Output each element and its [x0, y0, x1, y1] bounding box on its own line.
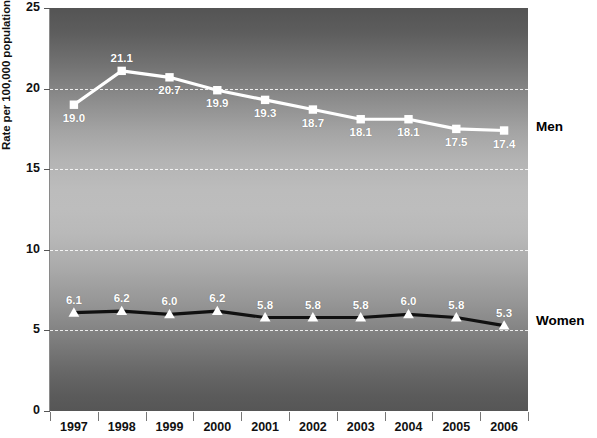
cropped-chart-title	[240, 0, 370, 6]
value-label-men-2001: 19.3	[243, 108, 287, 120]
value-label-men-2000: 19.9	[195, 98, 239, 110]
value-label-men-2006: 17.4	[482, 139, 526, 151]
x-tick-mark-end	[528, 412, 529, 421]
value-label-women-2001: 5.8	[243, 300, 287, 312]
series-line-men	[74, 71, 504, 131]
value-label-women-2005: 5.8	[434, 300, 478, 312]
value-label-women-2002: 5.8	[291, 300, 335, 312]
plot-area: 19.021.120.719.919.318.718.118.117.517.4…	[50, 8, 528, 411]
x-tick-mark-2006	[480, 412, 481, 421]
x-tick-mark-2001	[241, 412, 242, 421]
value-label-women-1999: 6.0	[148, 296, 192, 308]
x-tick-mark-2000	[193, 412, 194, 421]
series-label-women: Women	[536, 314, 585, 328]
series-lines	[50, 8, 528, 411]
value-label-men-1998: 21.1	[100, 53, 144, 65]
value-label-women-1998: 6.2	[100, 293, 144, 305]
y-tick-label-20: 20	[14, 82, 40, 95]
x-tick-mark-2005	[432, 412, 433, 421]
data-point-men-1998	[118, 67, 126, 75]
data-point-men-1997	[70, 101, 78, 109]
value-label-men-1997: 19.0	[52, 113, 96, 125]
data-point-men-2006	[500, 126, 508, 134]
y-tick-label-25: 25	[14, 1, 40, 14]
y-tick-label-10: 10	[14, 243, 40, 256]
y-tick-label-0: 0	[14, 404, 40, 417]
data-point-men-2005	[452, 125, 460, 133]
data-point-men-2003	[357, 115, 365, 123]
x-tick-mark-2002	[289, 412, 290, 421]
x-tick-label-2006: 2006	[474, 421, 534, 434]
series-line-women	[74, 311, 504, 326]
y-tick-label-15: 15	[14, 162, 40, 175]
x-tick-mark-1999	[146, 412, 147, 421]
data-point-men-2001	[261, 96, 269, 104]
x-tick-mark-2004	[385, 412, 386, 421]
data-point-men-1999	[165, 73, 173, 81]
y-axis-title: Rate per 100,000 population	[0, 0, 12, 150]
x-tick-mark-1998	[98, 412, 99, 421]
value-label-men-2002: 18.7	[291, 118, 335, 130]
y-tick-label-5: 5	[14, 323, 40, 336]
value-label-men-1999: 20.7	[148, 85, 192, 97]
data-point-men-2000	[213, 86, 221, 94]
value-label-women-1997: 6.1	[52, 295, 96, 307]
value-label-women-2000: 6.2	[195, 293, 239, 305]
data-point-men-2002	[309, 105, 317, 113]
series-label-men: Men	[536, 120, 563, 134]
data-point-men-2004	[404, 115, 412, 123]
x-tick-mark-2003	[337, 412, 338, 421]
value-label-women-2004: 6.0	[387, 296, 431, 308]
value-label-men-2003: 18.1	[339, 127, 383, 139]
line-chart: Rate per 100,000 population 0510152025 1…	[0, 0, 597, 438]
value-label-women-2003: 5.8	[339, 300, 383, 312]
value-label-men-2004: 18.1	[387, 127, 431, 139]
value-label-women-2006: 5.3	[482, 308, 526, 320]
value-label-men-2005: 17.5	[434, 137, 478, 149]
x-tick-mark-1997	[50, 412, 51, 421]
